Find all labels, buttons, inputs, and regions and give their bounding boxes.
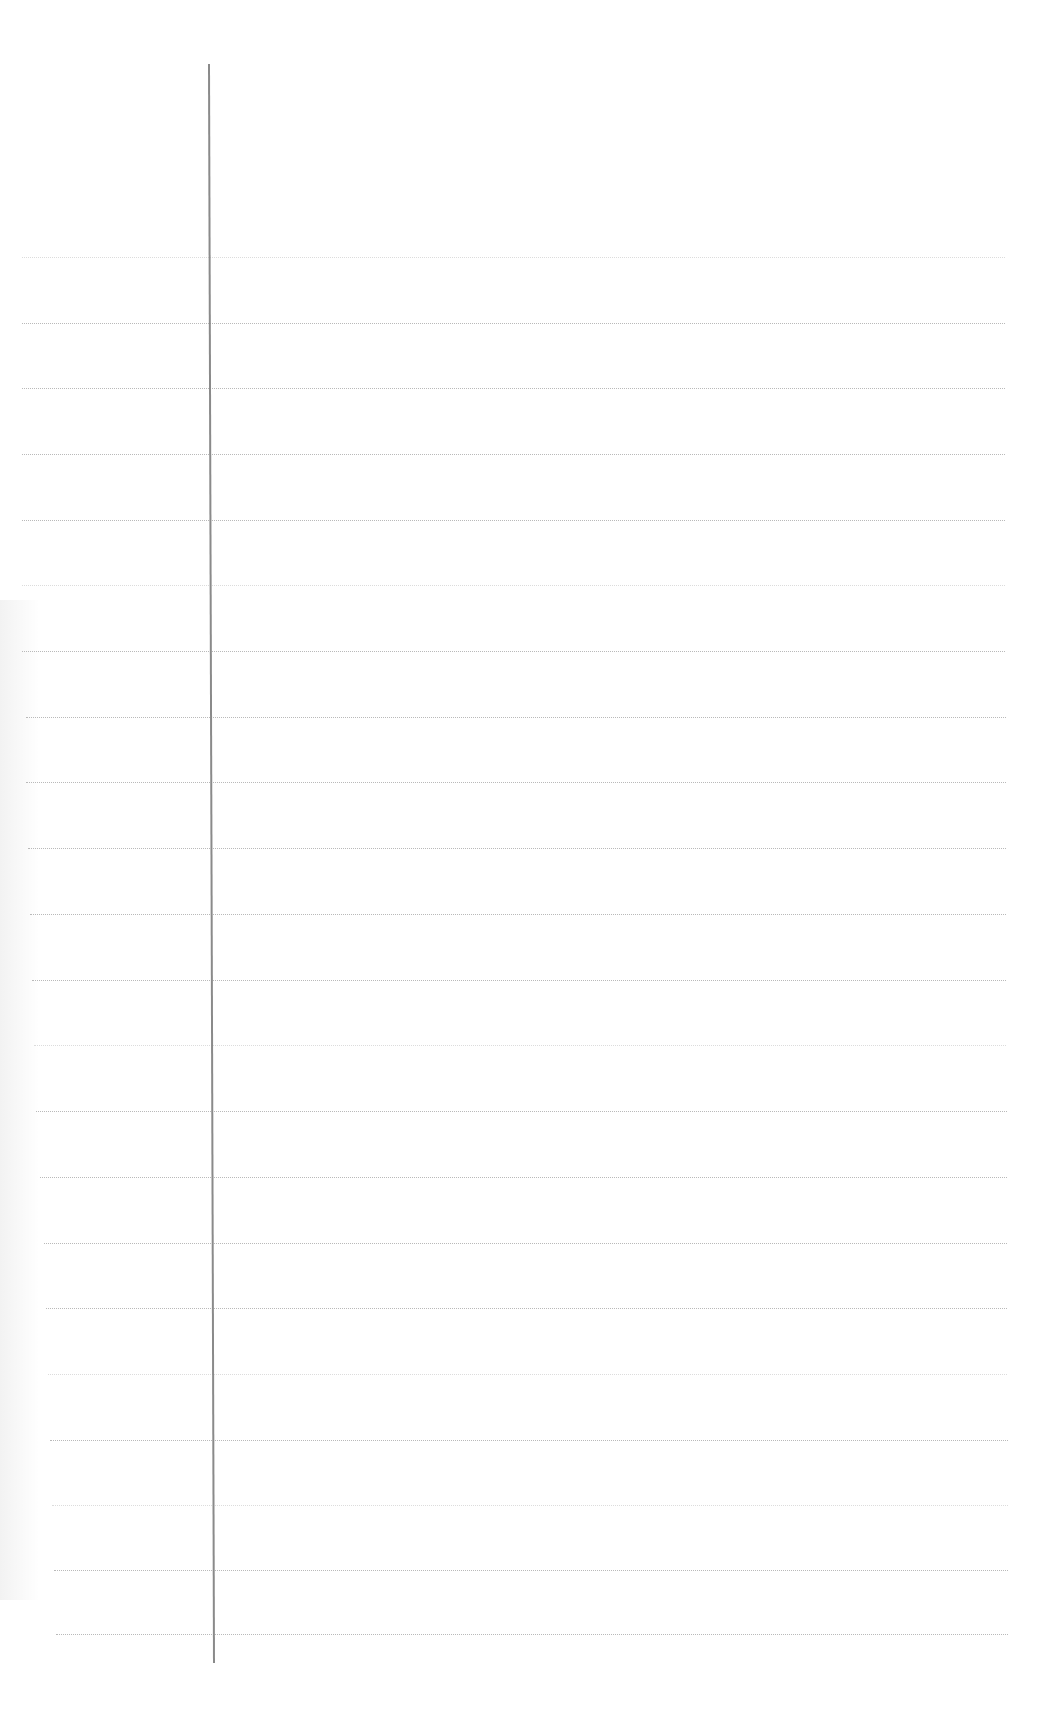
- page-edge-shadow: [0, 600, 40, 1600]
- ruled-line: [34, 1045, 1006, 1046]
- ruled-line: [52, 1505, 1008, 1506]
- ruled-line: [40, 1177, 1007, 1178]
- ruled-line: [22, 520, 1005, 521]
- ruled-line: [30, 914, 1006, 915]
- ruled-line: [22, 454, 1005, 455]
- ruled-line: [28, 848, 1006, 849]
- ruled-line: [54, 1570, 1008, 1571]
- ruled-line: [44, 1243, 1007, 1244]
- ruled-line: [26, 782, 1006, 783]
- ruled-line: [48, 1374, 1007, 1375]
- margin-line: [208, 64, 215, 1663]
- ruled-line: [22, 651, 1005, 652]
- ruled-line: [36, 1111, 1007, 1112]
- ruled-line: [32, 980, 1006, 981]
- ruled-line: [46, 1308, 1007, 1309]
- ruled-line: [50, 1440, 1008, 1441]
- ruled-line: [26, 717, 1006, 718]
- ruled-line: [22, 323, 1005, 324]
- ruled-line: [56, 1634, 1008, 1635]
- ruled-line: [22, 585, 1005, 586]
- ruled-paper-page: [0, 0, 1057, 1728]
- ruled-line: [22, 388, 1005, 389]
- ruled-line: [22, 257, 1005, 258]
